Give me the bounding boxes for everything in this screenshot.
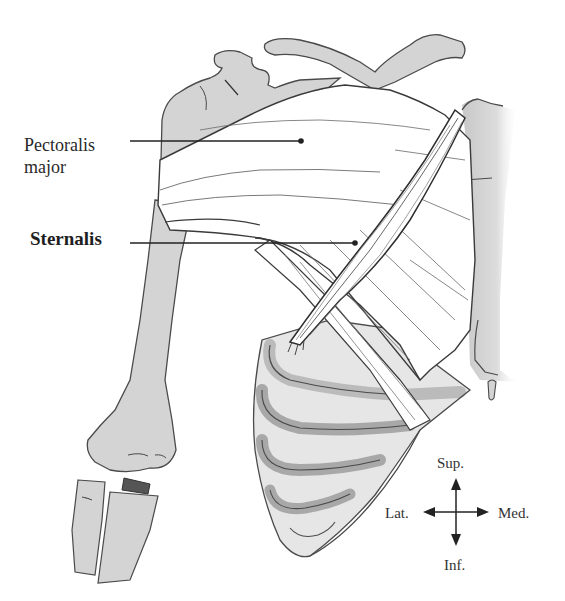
forearm-bones	[72, 478, 158, 583]
orientation-medial: Med.	[498, 505, 529, 522]
label-sternalis: Sternalis	[30, 228, 102, 250]
label-pectoralis-major: Pectoralis major	[24, 134, 95, 178]
orientation-inferior: Inf.	[444, 557, 465, 574]
label-pectoralis-line2: major	[24, 156, 95, 178]
orientation-arrows	[423, 478, 489, 546]
anatomy-illustration	[0, 0, 565, 601]
humerus	[87, 200, 192, 472]
orientation-superior: Sup.	[437, 455, 464, 472]
orientation-lateral: Lat.	[385, 505, 409, 522]
anatomy-figure: Pectoralis major Sternalis Sup. Inf. Lat…	[0, 0, 565, 601]
label-pectoralis-line1: Pectoralis	[24, 134, 95, 156]
